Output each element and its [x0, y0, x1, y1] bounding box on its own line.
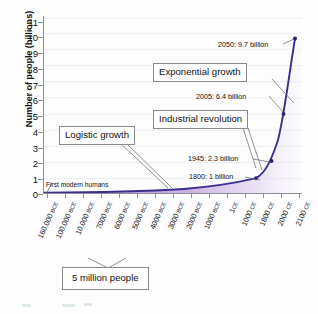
x-tick-value: 100,000	[54, 212, 73, 239]
y-tick-mark-2	[38, 163, 43, 164]
y-tick-mark-9	[38, 53, 43, 54]
x-tick-label-1000-bce: 1000 BCE	[202, 200, 222, 231]
population-growth-chart: Number of people (billions) 11 10 9 8 7 …	[0, 0, 318, 314]
y-tick-label-7: 7	[22, 81, 38, 91]
point-label-1800: 1800: 1 billion	[189, 173, 233, 180]
x-tick-value: 3000	[166, 212, 181, 230]
x-tick-label-1800-ce: 1800 CE	[258, 200, 277, 227]
point-2050	[293, 37, 297, 41]
x-tick-label-1000-ce: 1000 CE	[240, 200, 259, 227]
y-axis-tick-labels: 11 10 9 8 7 6 5 4 3 2 1 0	[20, 0, 38, 314]
annotation-first-modern-humans: First modern humans	[46, 182, 108, 189]
scan-artifact	[22, 302, 100, 309]
x-tick-mark-3	[101, 194, 102, 198]
y-tick-label-4: 4	[22, 128, 38, 138]
x-tick-mark-1	[65, 194, 66, 198]
x-tick-era: BCE	[103, 201, 113, 214]
x-tick-value: 5000	[130, 212, 145, 230]
y-tick-label-11: 11	[22, 18, 38, 28]
x-tick-label-1-ce: 1CE	[227, 200, 240, 214]
x-tick-value: 2100	[294, 209, 309, 227]
x-tick-mark-4	[119, 194, 120, 198]
x-tick-value: 10,000	[74, 212, 91, 236]
x-tick-mark-10	[227, 194, 228, 198]
x-tick-era: BCE	[121, 201, 131, 214]
y-tick-label-8: 8	[22, 65, 38, 75]
x-tick-era: BCE	[175, 201, 185, 214]
x-tick-value: 4000	[148, 212, 163, 230]
y-axis-line	[43, 16, 44, 194]
y-tick-mark-6	[38, 100, 43, 101]
x-tick-mark-14	[299, 194, 300, 198]
x-tick-mark-11	[245, 194, 246, 198]
point-label-2050: 2050: 9.7 billion	[218, 41, 268, 48]
y-tick-mark-11	[38, 22, 43, 23]
x-tick-era: BCE	[157, 201, 167, 214]
y-tick-label-1: 1	[22, 175, 38, 185]
x-tick-era: BCE	[67, 201, 77, 214]
y-tick-mark-5	[38, 116, 43, 117]
y-tick-label-9: 9	[22, 49, 38, 59]
x-tick-mark-8	[191, 194, 192, 198]
x-tick-era: CE	[231, 201, 240, 211]
annotation-exponential-growth: Exponential growth	[153, 63, 247, 82]
x-tick-value: 1800	[258, 209, 273, 227]
x-tick-value: 7000	[94, 212, 109, 230]
x-tick-era: CE	[267, 201, 276, 211]
x-tick-label-2000-ce: 2000 CE	[276, 200, 295, 227]
y-tick-label-3: 3	[22, 144, 38, 154]
point-1945	[270, 159, 274, 163]
y-tick-mark-4	[38, 132, 43, 133]
annotation-five-million-people: 5 million people	[62, 267, 149, 290]
x-tick-era: BCE	[211, 201, 221, 214]
x-tick-value: 1000	[202, 212, 217, 230]
x-tick-mark-7	[173, 194, 174, 198]
y-tick-mark-0	[38, 194, 43, 195]
x-tick-era: BCE	[49, 201, 59, 214]
y-tick-label-6: 6	[22, 96, 38, 106]
x-tick-label-2100-ce: 2100 CE	[294, 200, 313, 227]
y-tick-mark-3	[38, 148, 43, 149]
annotation-logistic-growth: Logistic growth	[59, 126, 135, 145]
y-tick-mark-1	[38, 179, 43, 180]
point-label-2005: 2005: 6.4 billion	[196, 93, 246, 100]
y-tick-mark-7	[38, 85, 43, 86]
point-1800	[254, 176, 258, 180]
x-tick-mark-0	[47, 194, 48, 198]
x-tick-value: 1000	[240, 209, 255, 227]
y-tick-label-5: 5	[22, 112, 38, 122]
y-tick-label-2: 2	[22, 159, 38, 169]
x-tick-era: CE	[285, 201, 294, 211]
x-tick-mark-2	[83, 194, 84, 198]
y-tick-label-0: 0	[22, 190, 38, 200]
x-tick-value: 2000	[184, 212, 199, 230]
x-tick-mark-6	[155, 194, 156, 198]
x-tick-mark-13	[281, 194, 282, 198]
y-tick-mark-8	[38, 69, 43, 70]
x-tick-value: 2000	[276, 209, 291, 227]
x-tick-era: CE	[249, 201, 258, 211]
y-tick-mark-10	[38, 37, 43, 38]
x-tick-value: 6000	[112, 212, 127, 230]
x-tick-era: CE	[303, 201, 312, 211]
x-tick-mark-5	[137, 194, 138, 198]
point-label-1945: 1945: 2.3 billion	[188, 155, 238, 162]
y-tick-label-10: 10	[22, 33, 38, 43]
annotation-industrial-revolution: Industrial revolution	[153, 110, 248, 129]
x-tick-era: BCE	[139, 201, 149, 214]
x-tick-era: BCE	[193, 201, 203, 214]
x-tick-mark-12	[263, 194, 264, 198]
x-tick-era: BCE	[85, 201, 95, 214]
x-tick-value: 160,000	[36, 212, 55, 239]
x-tick-mark-9	[209, 194, 210, 198]
point-2005	[282, 112, 286, 116]
